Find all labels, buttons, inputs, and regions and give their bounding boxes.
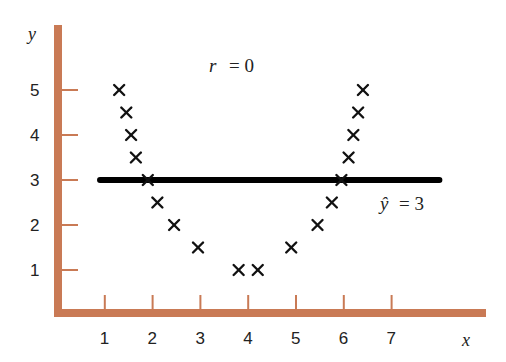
data-point-x-marker (152, 198, 162, 208)
x-tick-label: 4 (243, 329, 252, 348)
x-tick-label: 3 (195, 329, 204, 348)
data-point-x-marker (353, 108, 363, 118)
y-tick-label: 3 (30, 171, 39, 190)
x-axis-label: x (461, 330, 470, 350)
data-point-x-marker (121, 108, 131, 118)
data-point-x-marker (193, 243, 203, 253)
data-point-x-marker (114, 85, 124, 95)
scatter-chart: 12345 1234567 y x r = 0 ŷ = 3 (0, 0, 506, 362)
data-point-x-marker (169, 220, 179, 230)
data-point-x-marker (344, 153, 354, 163)
data-point-x-marker (348, 130, 358, 140)
y-tick-label: 4 (30, 126, 39, 145)
data-point-x-marker (358, 85, 368, 95)
yhat-symbol: ŷ (378, 193, 389, 214)
x-tick-label: 7 (387, 329, 396, 348)
y-tick-label: 1 (30, 261, 39, 280)
x-ticks: 1234567 (100, 295, 396, 348)
x-tick-label: 2 (148, 329, 157, 348)
data-point-x-marker (327, 198, 337, 208)
data-point-x-marker (313, 220, 323, 230)
data-point-x-marker (253, 265, 263, 275)
y-axis-label: y (26, 24, 36, 44)
r-symbol: r (209, 55, 217, 76)
x-tick-label: 5 (291, 329, 300, 348)
yhat-value: = 3 (399, 193, 424, 214)
x-axis (54, 309, 486, 317)
y-tick-label: 5 (30, 81, 39, 100)
axes (54, 25, 486, 317)
r-annotation: r = 0 (209, 55, 254, 76)
yhat-annotation: ŷ = 3 (378, 193, 424, 214)
y-axis (54, 25, 62, 317)
r-value: = 0 (229, 55, 254, 76)
data-point-x-marker (126, 130, 136, 140)
data-point-x-marker (131, 153, 141, 163)
y-tick-label: 2 (30, 216, 39, 235)
data-point-x-marker (286, 243, 296, 253)
data-point-x-marker (234, 265, 244, 275)
x-tick-label: 6 (339, 329, 348, 348)
x-tick-label: 1 (100, 329, 109, 348)
